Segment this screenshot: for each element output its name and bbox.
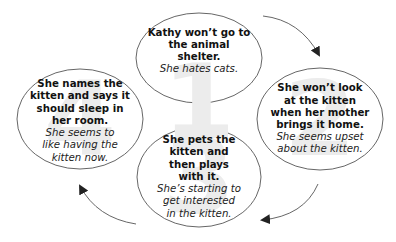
arrow-1-to-2 <box>263 16 319 55</box>
node-3: 3 She pets the kitten and then plays wit… <box>138 127 260 227</box>
arrow-3-to-4 <box>80 186 136 224</box>
node-2-feeling: She seems upset about the kitten. <box>274 131 366 155</box>
node-4-event: She names the kitten and says it should … <box>27 78 133 127</box>
node-1-feeling: She hates cats. <box>147 63 251 75</box>
node-3-event: She pets the kitten and then plays with … <box>156 134 242 183</box>
node-3-feeling: She’s starting to get interested in the … <box>157 183 241 220</box>
node-1-event: Kathy won’t go to the animal shelter. <box>147 27 251 64</box>
node-2-event: She won’t look at the kitten when her mo… <box>270 82 370 131</box>
node-2: 2 She won’t look at the kitten when her … <box>258 68 382 170</box>
node-4-feeling: She seems to like having the kitten now. <box>38 127 122 164</box>
arrow-2-to-3 <box>262 184 318 220</box>
node-4: 4 She names the kitten and says it shoul… <box>18 69 142 169</box>
node-1: 1 Kathy won’t go to the animal shelter. … <box>137 14 261 102</box>
